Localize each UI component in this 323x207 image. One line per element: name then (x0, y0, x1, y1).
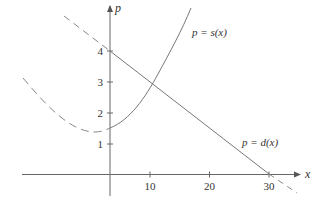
demand-curve-dashed-left (64, 16, 110, 51)
supply-curve-label: p = s(x) (191, 26, 227, 39)
demand-curve-label: p = d(x) (241, 136, 278, 149)
x-axis: 10 20 30 x (22, 167, 311, 192)
x-axis-label: x (304, 167, 311, 181)
supply-curve-solid (110, 8, 191, 128)
x-tick-label-10: 10 (145, 180, 157, 192)
y-axis: 1 2 3 4 p (98, 1, 122, 196)
y-tick-label-2: 2 (98, 107, 104, 119)
supply-curve: p = s(x) (23, 8, 227, 132)
chart: 10 20 30 x 1 2 3 4 p p = d(x) p = s(x) (0, 0, 323, 207)
y-tick-label-1: 1 (98, 138, 104, 150)
demand-curve-solid (110, 51, 269, 174)
x-tick-label-30: 30 (264, 180, 276, 192)
y-tick-label-3: 3 (98, 76, 104, 88)
y-axis-label: p (114, 1, 121, 15)
x-tick-label-20: 20 (204, 180, 216, 192)
y-tick-label-4: 4 (98, 45, 104, 57)
demand-curve: p = d(x) (64, 16, 297, 193)
